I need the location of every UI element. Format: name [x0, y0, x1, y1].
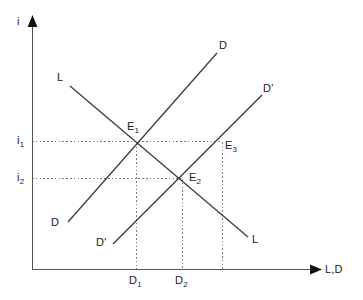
curve-L: [70, 86, 248, 237]
point-e2-text: E: [189, 171, 197, 183]
point-label-e1: E1: [127, 121, 139, 135]
curve-label-D-prime-start: D': [96, 237, 106, 248]
x-tick-d2-text: D: [175, 274, 183, 286]
x-tick-d1-sub: 1: [137, 280, 142, 289]
curve-label-D-start: D: [51, 217, 59, 228]
curve-label-D-prime-end: D': [263, 83, 273, 94]
point-e3-text: E: [225, 139, 233, 151]
curve-label-L-start: L: [57, 72, 63, 83]
y-tick-label-i1: i1: [17, 135, 24, 149]
point-e2-sub: 2: [197, 177, 202, 186]
curve-label-D-end: D: [219, 40, 227, 51]
curve-D: [68, 53, 217, 222]
x-axis-arrow: [310, 265, 322, 275]
x-axis-label: L,D: [325, 264, 343, 275]
x-tick-label-d1: D1: [129, 275, 142, 289]
curve-label-L-end: L: [252, 234, 258, 245]
loanable-funds-diagram: i L,D i1 i2 D1 D2 E1 E2 E3 L L D D D' D': [0, 0, 363, 300]
guide-lines: [32, 141, 222, 270]
x-tick-label-d2: D2: [175, 275, 188, 289]
x-tick-d1-text: D: [129, 274, 137, 286]
point-label-e2: E2: [189, 172, 201, 186]
point-e1-sub: 1: [135, 126, 140, 135]
y-axis-arrow: [28, 15, 38, 27]
x-tick-d2-sub: 2: [183, 280, 188, 289]
y-tick-i1-sub: 1: [20, 140, 25, 149]
diagram-canvas: [0, 0, 363, 300]
point-e1-text: E: [127, 120, 135, 132]
y-axis-label: i: [17, 16, 20, 27]
y-tick-label-i2: i2: [17, 172, 24, 186]
curve-D-prime: [113, 95, 262, 244]
y-tick-i2-sub: 2: [20, 177, 25, 186]
point-label-e3: E3: [225, 140, 237, 154]
axes: [28, 15, 322, 274]
point-e3-sub: 3: [233, 145, 238, 154]
